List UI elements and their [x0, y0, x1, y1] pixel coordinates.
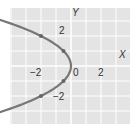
x-tick-2: 2	[98, 68, 104, 78]
data-point	[62, 79, 66, 83]
y-tick-neg2: −2	[53, 92, 64, 102]
y-tick-2: 2	[59, 26, 65, 36]
y-axis-label: Y	[72, 8, 79, 18]
parabola-chart	[0, 0, 138, 132]
x-axis-label: X	[119, 50, 126, 60]
data-point	[39, 34, 43, 38]
data-point	[39, 94, 43, 98]
x-tick-neg2: −2	[30, 68, 41, 78]
data-point	[62, 49, 66, 53]
x-tick-0: 0	[73, 68, 79, 78]
